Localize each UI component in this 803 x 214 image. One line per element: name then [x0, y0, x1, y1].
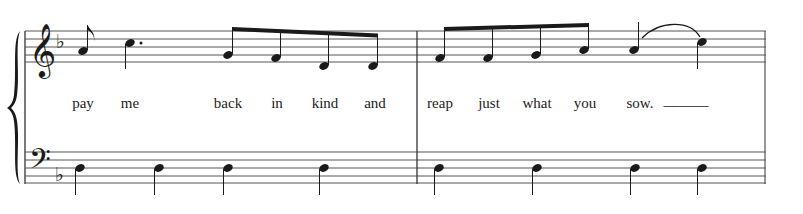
note-C5-quarter — [696, 37, 708, 69]
lyric-extender: ______ — [664, 92, 709, 109]
lyric-syllable: back — [214, 95, 242, 112]
lyric-syllable: pay — [72, 95, 94, 112]
bass-notes — [74, 163, 708, 195]
lyric-syllable: reap — [427, 95, 453, 112]
note-A4-eighth — [77, 25, 94, 56]
lyric-syllable: you — [574, 95, 597, 112]
lyric-syllable: me — [121, 95, 139, 112]
flat-icon: ♭ — [55, 163, 64, 185]
beamed-eighths-m1 — [222, 27, 379, 71]
brace-icon — [7, 31, 20, 184]
treble-staff — [25, 31, 766, 62]
note-C5-dotted-quarter — [124, 38, 143, 69]
lyric-syllable: and — [364, 95, 386, 112]
lyric-syllable: in — [271, 95, 283, 112]
lyric-syllable: what — [522, 95, 551, 112]
lyric-syllable: kind — [312, 95, 339, 112]
flat-icon: ♭ — [56, 30, 65, 52]
lyric-syllable: sow. — [627, 95, 654, 112]
bass-staff — [25, 152, 766, 183]
beamed-eighths-m2 — [434, 23, 590, 63]
bass-clef-icon: 𝄢 — [29, 142, 51, 182]
treble-clef-icon: 𝄞 — [29, 23, 56, 79]
lyric-syllable: just — [478, 95, 500, 112]
